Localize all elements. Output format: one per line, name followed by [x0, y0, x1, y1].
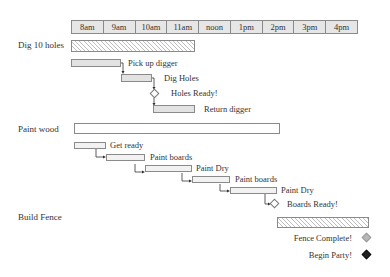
task-bar-paint-boards-2[interactable] — [192, 176, 230, 183]
group-label-dig-holes: Dig 10 holes — [18, 40, 64, 50]
task-label-paint-boards-1: Paint boards — [150, 152, 192, 162]
task-bar-paint-dry-1[interactable] — [145, 165, 192, 172]
task-label-get-ready: Get ready — [110, 140, 143, 150]
task-bar-dig-holes[interactable] — [121, 74, 152, 82]
task-bar-pick-up-digger[interactable] — [71, 59, 121, 67]
task-label-paint-dry-2: Paint Dry — [281, 185, 314, 195]
milestone-label-holes-ready: Holes Ready! — [171, 88, 218, 98]
task-label-dig-holes: Dig Holes — [164, 73, 199, 83]
task-bar-paint-dry-2[interactable] — [230, 187, 277, 194]
milestone-label-fence-complete: Fence Complete! — [294, 233, 352, 243]
milestone-label-begin-party: Begin Party! — [309, 250, 352, 260]
task-bar-paint-boards-1[interactable] — [106, 154, 145, 161]
task-bar-return-digger[interactable] — [153, 105, 195, 113]
group-label-paint-wood: Paint wood — [18, 124, 59, 134]
task-bar-get-ready[interactable] — [74, 142, 106, 149]
task-label-paint-dry-1: Paint Dry — [196, 163, 229, 173]
summary-bar-build-fence[interactable] — [277, 217, 369, 228]
summary-bar-paint-wood[interactable] — [74, 123, 280, 134]
task-label-paint-boards-2: Paint boards — [235, 174, 277, 184]
summary-bar-dig-holes[interactable] — [71, 40, 195, 52]
milestone-label-boards-ready: Boards Ready! — [287, 199, 338, 209]
task-label-pick-up-digger: Pick up digger — [128, 58, 178, 68]
task-label-return-digger: Return digger — [204, 104, 251, 114]
group-label-build-fence: Build Fence — [18, 212, 62, 222]
